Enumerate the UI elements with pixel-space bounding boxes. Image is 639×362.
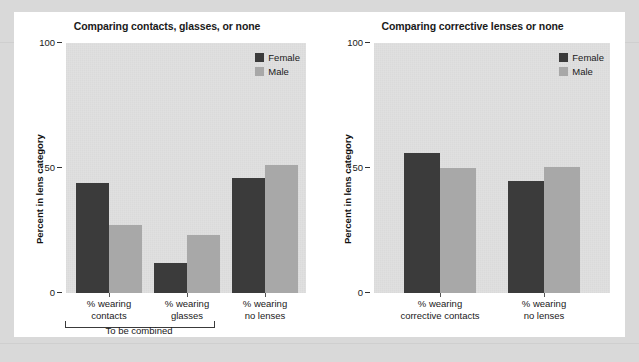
bar-female-corrective-contacts <box>404 153 440 293</box>
legend-label-male: Male <box>268 66 289 77</box>
x-tick-glasses <box>187 293 188 297</box>
y-axis-label-right: Percent in lens category <box>342 134 353 244</box>
legend-label-male: Male <box>572 66 593 77</box>
bar-male-contacts <box>109 225 142 293</box>
x-category-no-lenses-right-line2: no lenses <box>494 310 594 322</box>
x-tick-no-lenses <box>265 293 266 297</box>
bar-male-no-lenses <box>265 165 298 293</box>
x-tick-contacts <box>109 293 110 297</box>
x-tick-corrective-contacts <box>440 293 441 297</box>
legend-swatch-male-icon <box>559 67 568 76</box>
x-tick-no-lenses-right <box>544 293 545 297</box>
x-category-corrective-contacts: % wearing corrective contacts <box>382 298 498 321</box>
bar-female-contacts <box>76 183 109 293</box>
figure-panel: Comparing contacts, glasses, or none Per… <box>14 12 625 337</box>
legend-label-female: Female <box>268 52 300 63</box>
bar-male-no-lenses-right <box>544 167 580 293</box>
bar-female-glasses <box>154 263 187 293</box>
x-category-contacts-line2: contacts <box>71 310 147 322</box>
x-category-no-lenses-right: % wearing no lenses <box>494 298 594 321</box>
chart-corrective-lenses-none: Comparing corrective lenses or none Perc… <box>320 12 625 337</box>
plot-area-left: Female Male <box>66 43 306 293</box>
bar-female-no-lenses-right <box>508 181 544 293</box>
legend-row-female-right: Female <box>559 51 604 63</box>
chart-title-right: Comparing corrective lenses or none <box>320 20 625 32</box>
y-tick-100-left: 100 <box>32 37 62 48</box>
bar-male-glasses <box>187 235 220 293</box>
y-tick-0-left: 0 <box>32 287 62 298</box>
x-category-no-lenses-right-line1: % wearing <box>494 298 594 310</box>
x-category-no-lenses: % wearing no lenses <box>227 298 303 321</box>
legend-right: Female Male <box>559 51 604 79</box>
x-category-corrective-contacts-line1: % wearing <box>382 298 498 310</box>
x-category-contacts: % wearing contacts <box>71 298 147 321</box>
x-category-contacts-line1: % wearing <box>71 298 147 310</box>
y-tick-0-right: 0 <box>340 287 370 298</box>
y-tick-50-left: 50 <box>32 162 62 173</box>
legend-swatch-male-icon <box>255 67 264 76</box>
y-tick-50-right: 50 <box>340 162 370 173</box>
x-category-no-lenses-line1: % wearing <box>227 298 303 310</box>
legend-row-male-left: Male <box>255 65 300 77</box>
chart-title-left: Comparing contacts, glasses, or none <box>14 20 320 32</box>
y-axis-label-left: Percent in lens category <box>34 134 45 244</box>
bar-male-corrective-contacts <box>440 168 476 293</box>
x-category-glasses-line2: glasses <box>149 310 225 322</box>
x-category-no-lenses-line2: no lenses <box>227 310 303 322</box>
legend-swatch-female-icon <box>255 53 264 62</box>
legend-swatch-female-icon <box>559 53 568 62</box>
y-tick-100-right: 100 <box>340 37 370 48</box>
margin-rule-bottom <box>0 343 639 344</box>
x-category-glasses: % wearing glasses <box>149 298 225 321</box>
chart-contacts-glasses-none: Comparing contacts, glasses, or none Per… <box>14 12 320 337</box>
legend-row-female-left: Female <box>255 51 300 63</box>
to-be-combined-label: To be combined <box>65 325 213 336</box>
plot-area-right: Female Male <box>374 43 610 293</box>
legend-row-male-right: Male <box>559 65 604 77</box>
legend-label-female: Female <box>572 52 604 63</box>
x-category-glasses-line1: % wearing <box>149 298 225 310</box>
figure-root: Comparing contacts, glasses, or none Per… <box>0 0 639 362</box>
legend-left: Female Male <box>255 51 300 79</box>
x-category-corrective-contacts-line2: corrective contacts <box>382 310 498 322</box>
bar-female-no-lenses <box>232 178 265 293</box>
